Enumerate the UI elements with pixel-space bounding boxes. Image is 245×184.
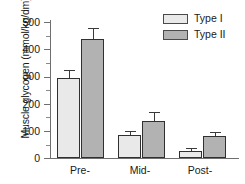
y-tick-label-400: 400 xyxy=(12,44,40,55)
x-axis-line xyxy=(50,158,239,159)
legend: Type I Type II xyxy=(163,12,226,44)
y-tick-label-200: 200 xyxy=(12,99,40,110)
x-axis-label-mid: Mid- xyxy=(112,164,168,176)
legend-label-type-ii: Type II xyxy=(194,29,226,40)
error-cap-mid-type-i xyxy=(125,131,136,132)
y-tick-label-0: 0 xyxy=(12,153,40,164)
error-bar-post-type-i xyxy=(191,149,192,151)
bar-post-type-i xyxy=(179,151,202,158)
error-bar-mid-type-ii xyxy=(154,113,155,121)
error-bar-mid-type-i xyxy=(130,132,131,136)
legend-item-type-ii: Type II xyxy=(163,28,226,41)
y-tick-label-300: 300 xyxy=(12,71,40,82)
bar-chart-figure: Muscle glycogen (mmol/kg/dm) 500 400 300… xyxy=(0,0,245,184)
bar-post-type-ii xyxy=(203,136,226,158)
bar-pre-type-ii xyxy=(81,39,104,158)
legend-label-type-i: Type I xyxy=(194,13,223,24)
error-cap-post-type-i xyxy=(186,148,197,149)
error-bar-pre-type-i xyxy=(69,71,70,78)
error-cap-pre-type-i xyxy=(64,70,75,71)
bar-mid-type-ii xyxy=(142,121,165,158)
legend-item-type-i: Type I xyxy=(163,12,226,25)
error-bar-pre-type-ii xyxy=(93,29,94,39)
error-cap-mid-type-ii xyxy=(149,112,160,113)
error-cap-pre-type-ii xyxy=(88,28,99,29)
error-cap-post-type-ii xyxy=(210,132,221,133)
error-bar-post-type-ii xyxy=(215,133,216,136)
y-tick-label-100: 100 xyxy=(12,126,40,137)
x-axis-label-post: Post- xyxy=(172,164,228,176)
legend-swatch-type-i xyxy=(163,14,188,24)
x-axis-label-pre: Pre- xyxy=(52,164,108,176)
bar-mid-type-i xyxy=(118,135,141,158)
legend-swatch-type-ii xyxy=(163,30,188,40)
y-axis-tick-labels: 500 400 300 200 100 0 xyxy=(8,0,40,184)
bar-pre-type-i xyxy=(57,78,80,158)
y-tick-label-500: 500 xyxy=(12,17,40,28)
